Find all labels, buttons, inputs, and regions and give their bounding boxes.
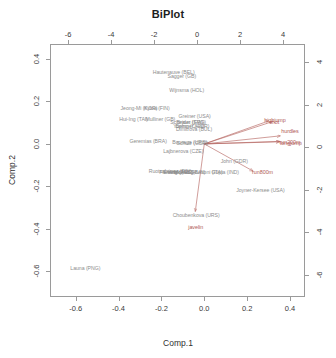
data-point-label: Lajbnerova (CZE) — [163, 148, 203, 154]
y-tick-label: -0.6 — [32, 265, 41, 278]
top-tick-label: 2 — [238, 30, 242, 39]
x-tick-mark — [119, 297, 120, 301]
x-tick-label: -0.6 — [69, 304, 82, 313]
data-point-label: Kytoa (FIN) — [144, 105, 170, 111]
x-tick-mark — [76, 297, 77, 301]
top-tick-label: -4 — [108, 30, 115, 39]
variable-arrow-label: shot — [269, 119, 279, 125]
top-tick-label: -2 — [151, 30, 158, 39]
x-tick-mark — [161, 297, 162, 301]
y-tick-mark — [46, 271, 50, 272]
x-tick-label: 0.4 — [285, 304, 295, 313]
top-tick-mark — [283, 40, 284, 44]
data-point-label: Dimitrova (BUL) — [176, 126, 212, 132]
y-tick-label: -0.4 — [32, 222, 41, 235]
data-point-label: Hui-Ing (TAI) — [119, 116, 148, 122]
top-tick-label: 0 — [195, 30, 199, 39]
data-point-label: Gupta (IND) — [212, 169, 239, 175]
y-axis-title: Comp.2 — [7, 155, 17, 185]
y-tick-mark — [46, 229, 50, 230]
right-tick-label: 0 — [315, 145, 324, 149]
y-tick-label: 0.0 — [32, 139, 41, 149]
x-tick-label: 0.0 — [199, 304, 209, 313]
variable-arrow-label: longjump — [280, 140, 301, 146]
right-tick-mark — [305, 190, 309, 191]
top-tick-mark — [240, 40, 241, 44]
variable-arrow-label: hurdles — [281, 128, 298, 134]
data-point-label: Sagger (GB) — [167, 73, 196, 79]
y-tick-label: 0.2 — [32, 96, 41, 106]
y-tick-mark — [46, 101, 50, 102]
right-tick-mark — [305, 232, 309, 233]
data-point-label: Geremias (BRA) — [129, 138, 166, 144]
x-tick-label: -0.4 — [112, 304, 125, 313]
biplot-canvas: BiPlot -0.6-0.4-0.20.00.20.4-6-4-20240.4… — [0, 0, 336, 358]
right-tick-label: -2 — [315, 186, 324, 193]
right-tick-label: 2 — [315, 103, 324, 107]
right-tick-label: -4 — [315, 229, 324, 236]
top-tick-label: -6 — [65, 30, 72, 39]
right-tick-label: 4 — [315, 60, 324, 64]
right-tick-mark — [305, 147, 309, 148]
data-point-label: Choubenkova (URS) — [173, 212, 220, 218]
top-tick-label: 4 — [281, 30, 285, 39]
data-point-label: Schulz (GDR) — [177, 140, 208, 146]
right-tick-mark — [305, 275, 309, 276]
x-tick-label: -0.2 — [155, 304, 168, 313]
y-tick-mark — [46, 59, 50, 60]
y-tick-mark — [46, 186, 50, 187]
x-tick-label: 0.2 — [242, 304, 252, 313]
y-tick-label: -0.2 — [32, 180, 41, 193]
right-tick-mark — [305, 62, 309, 63]
x-tick-mark — [204, 297, 205, 301]
data-point-label: Wijnsma (HOL) — [169, 87, 204, 93]
variable-arrow-label: javelin — [188, 224, 203, 230]
variable-arrow-label: run800m — [252, 169, 273, 175]
y-tick-label: 0.4 — [32, 54, 41, 64]
data-point-label: Greiner (USA) — [179, 113, 211, 119]
top-tick-mark — [111, 40, 112, 44]
y-tick-mark — [46, 144, 50, 145]
data-point-label: John (GDR) — [221, 158, 248, 164]
data-point-label: Joyner-Kersee (USA) — [236, 187, 284, 193]
data-point-label: Launa (PNG) — [70, 265, 100, 271]
top-tick-mark — [68, 40, 69, 44]
chart-title: BiPlot — [0, 8, 336, 20]
x-tick-mark — [290, 297, 291, 301]
top-tick-mark — [154, 40, 155, 44]
top-tick-mark — [197, 40, 198, 44]
x-tick-mark — [247, 297, 248, 301]
right-tick-label: -6 — [315, 272, 324, 279]
x-axis-title: Comp.1 — [163, 338, 193, 348]
right-tick-mark — [305, 105, 309, 106]
